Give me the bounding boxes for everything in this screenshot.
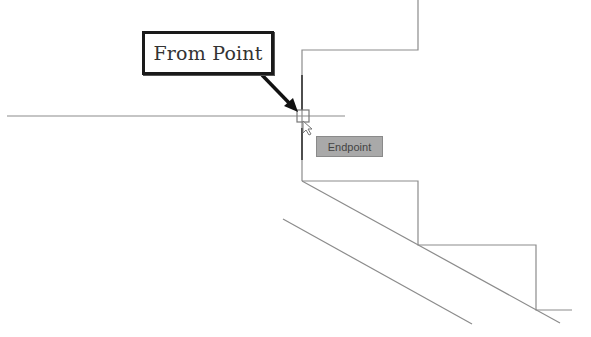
stair-lower-diagonal xyxy=(283,219,472,324)
cursor-arrow-icon xyxy=(303,121,312,135)
endpoint-snap-tooltip: Endpoint xyxy=(316,136,383,157)
drawing-canvas[interactable] xyxy=(0,0,591,337)
tooltip-label: Endpoint xyxy=(328,141,371,153)
stair-middle-step xyxy=(302,181,572,310)
from-point-callout: From Point xyxy=(142,31,274,75)
callout-pointer-arrow-line xyxy=(262,75,292,106)
callout-label: From Point xyxy=(153,42,262,64)
